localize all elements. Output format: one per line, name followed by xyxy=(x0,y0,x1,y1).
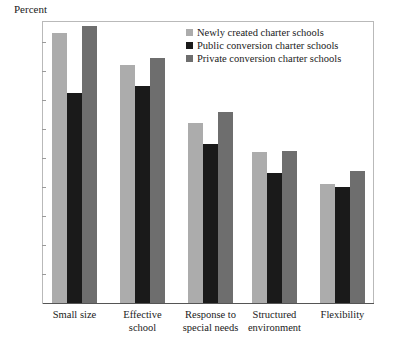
x-axis-tick-label: Effective school xyxy=(123,308,161,334)
legend-item: Public conversion charter schools xyxy=(186,39,341,52)
legend-item: Private conversion charter schools xyxy=(186,52,341,65)
bar xyxy=(150,58,165,303)
bar xyxy=(67,93,82,303)
bar xyxy=(135,86,150,304)
x-axis-tick-label: Small size xyxy=(53,308,96,321)
bar xyxy=(335,187,350,303)
bar xyxy=(252,152,267,303)
legend-item-label: Newly created charter schools xyxy=(197,26,324,39)
bar xyxy=(120,65,135,303)
legend-swatch-icon xyxy=(186,29,193,36)
bar xyxy=(350,171,365,303)
x-axis: Small sizeEffective schoolResponse to sp… xyxy=(0,308,396,348)
legend-item-label: Public conversion charter schools xyxy=(197,39,338,52)
x-axis-baseline xyxy=(43,303,374,304)
chart-legend: Newly created charter schoolsPublic conv… xyxy=(186,26,341,65)
bar xyxy=(282,151,297,303)
bar xyxy=(267,173,282,304)
y-axis: 102030405060708090 xyxy=(0,0,42,348)
bar xyxy=(188,123,203,303)
bar xyxy=(52,33,67,303)
bar xyxy=(82,26,97,303)
legend-item: Newly created charter schools xyxy=(186,26,341,39)
legend-swatch-icon xyxy=(186,55,193,62)
legend-item-label: Private conversion charter schools xyxy=(197,52,341,65)
bar xyxy=(203,144,218,304)
x-axis-tick-label: Structured environment xyxy=(248,308,301,334)
bar xyxy=(320,184,335,303)
bar xyxy=(218,112,233,303)
x-axis-tick-label: Flexibility xyxy=(321,308,365,321)
legend-swatch-icon xyxy=(186,42,193,49)
x-axis-tick-label: Response to special needs xyxy=(183,308,239,334)
